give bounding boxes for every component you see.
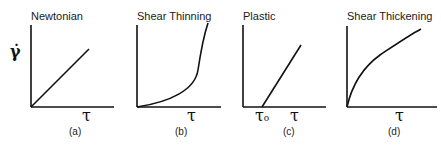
panel-d-axes [347,26,437,107]
panel-c-caption: (c) [283,126,295,137]
panel-c-axes [243,25,326,107]
panel-b-title: Shear Thinning [137,10,211,22]
panel-a-curve [31,49,89,107]
panel-b-xlabel: τ [187,106,196,125]
panel-a-title: Newtonian [31,10,83,22]
panel-d-curve [347,29,421,107]
panel-a-ylabel: γ̇ [10,42,21,61]
panel-b-caption: (b) [175,126,187,137]
panel-a-xlabel: τ [82,106,91,125]
panel-b-curve [137,23,208,107]
panel-c-xlabel: τ [290,106,299,125]
panel-a-caption: (a) [69,126,81,137]
panel-d-title: Shear Thickening [347,10,432,22]
panel-c-curve [262,45,301,107]
panel-d-xlabel: τ [395,106,404,125]
panel-c-x0-label: τo [255,106,269,125]
panel-c-title: Plastic [243,10,275,22]
panel-d-caption: (d) [388,126,400,137]
